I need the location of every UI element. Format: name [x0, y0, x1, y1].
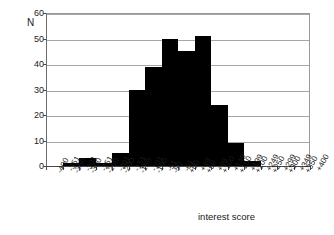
y-axis-tick-label: 30 [0, 86, 44, 95]
bar-slot [195, 13, 212, 166]
bar-slot [294, 13, 311, 166]
y-axis-tick-label: 0 [0, 162, 44, 171]
bar-slot [79, 13, 96, 166]
bar-slot [145, 13, 162, 166]
bar [195, 36, 212, 166]
y-axis-label: N [27, 18, 34, 28]
bar [145, 67, 162, 166]
y-axis-tick-label: 50 [0, 35, 44, 44]
x-axis-tick-mark [46, 166, 47, 170]
bar-slot [178, 13, 195, 166]
bar-slot [228, 13, 245, 166]
y-axis-tick-label: 40 [0, 60, 44, 69]
bar-slot [112, 13, 129, 166]
bar-slot [129, 13, 146, 166]
histogram-chart: N 0102030405060 -400-351-350-301-300-251… [0, 0, 334, 235]
y-axis-tick-label: 60 [0, 9, 44, 18]
bar [178, 51, 195, 166]
bar-slot [63, 13, 80, 166]
y-axis-tick-label: 10 [0, 137, 44, 146]
bar-series [46, 13, 310, 166]
y-axis-tick-label: 20 [0, 111, 44, 120]
bar-slot [261, 13, 278, 166]
bar-slot [162, 13, 179, 166]
bar-slot [211, 13, 228, 166]
x-axis-title: interest score [198, 212, 255, 222]
bar-slot [277, 13, 294, 166]
bar [162, 39, 179, 167]
bar-slot [244, 13, 261, 166]
bar-slot [46, 13, 63, 166]
bar-slot [96, 13, 113, 166]
